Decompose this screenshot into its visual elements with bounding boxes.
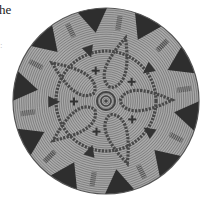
basket-illustration [0,0,210,210]
